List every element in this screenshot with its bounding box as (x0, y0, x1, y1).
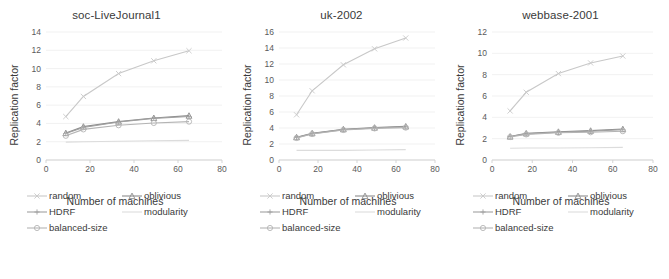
y-tick-label: 16 (265, 27, 275, 37)
series-marker-random (508, 108, 513, 113)
legend-spacer (354, 220, 449, 236)
x-tick-label: 60 (173, 164, 183, 174)
legend-item-oblivious[interactable]: oblivious (354, 188, 449, 204)
x-tick-label: 80 (648, 164, 658, 174)
legend-label: HDRF (49, 207, 75, 217)
legend-item-modularity[interactable]: modularity (121, 204, 216, 220)
y-tick-label: 0 (36, 155, 41, 165)
y-tick-label: 8 (269, 91, 274, 101)
legend-item-random[interactable]: random (26, 188, 121, 204)
legend-item-balanced-size[interactable]: balanced-size (472, 220, 567, 236)
legend-label: HDRF (282, 207, 308, 217)
legend-label: oblivious (144, 191, 181, 201)
legend-label: balanced-size (49, 223, 108, 233)
series-line-random (297, 38, 406, 115)
series-line-random (66, 51, 189, 117)
legend-item-modularity[interactable]: modularity (354, 204, 449, 220)
y-tick-label: 10 (265, 75, 275, 85)
y-tick-label: 2 (36, 137, 41, 147)
legend-label: balanced-size (495, 223, 554, 233)
legend-label: balanced-size (282, 223, 341, 233)
legend-item-balanced-size[interactable]: balanced-size (26, 220, 121, 236)
y-tick-label: 6 (482, 91, 487, 101)
legend-label: HDRF (495, 207, 521, 217)
legend-item-HDRF[interactable]: HDRF (472, 204, 567, 220)
y-tick-label: 10 (32, 64, 42, 74)
chart-legend-1: randomobliviousHDRFmodularitybalanced-si… (259, 188, 459, 236)
plus-glyph (34, 209, 39, 214)
legend-label: random (282, 191, 314, 201)
y-tick-label: 0 (269, 155, 274, 165)
y-tick-label: 14 (32, 27, 42, 37)
legend-label: oblivious (377, 191, 414, 201)
chart-legend-0: randomobliviousHDRFmodularitybalanced-si… (26, 188, 226, 236)
series-marker-random (372, 46, 377, 51)
y-tick-label: 4 (482, 112, 487, 122)
series-line-random (510, 56, 623, 111)
plus-marker-icon (26, 207, 48, 217)
plus-glyph (480, 209, 485, 214)
legend-label: modularity (144, 207, 188, 217)
plus-marker-icon (472, 207, 494, 217)
circle-marker-icon (472, 223, 494, 233)
series-marker-random (403, 35, 408, 40)
y-tick-label: 6 (269, 107, 274, 117)
x-tick-label: 20 (313, 164, 323, 174)
cross-marker-icon (472, 191, 494, 201)
series-marker-random (524, 90, 529, 95)
page-title: soc-LiveJournal1 (0, 0, 233, 22)
legend-item-balanced-size[interactable]: balanced-size (259, 220, 354, 236)
series-marker-random (81, 94, 86, 99)
legend-item-random[interactable]: random (472, 188, 567, 204)
y-tick-label: 12 (265, 59, 275, 69)
chart-canvas-1: 0246810121416020406080 (253, 22, 443, 182)
legend-item-oblivious[interactable]: oblivious (567, 188, 662, 204)
x-tick-label: 40 (352, 164, 362, 174)
cross-marker-icon (26, 191, 48, 201)
plot-area-0: Replication factor 02468101214020406080 … (0, 22, 233, 207)
replication-factor-figure: soc-LiveJournal1 Replication factor 0246… (0, 0, 669, 279)
triangle-marker-icon (121, 191, 143, 201)
chart-panel-webbase-2001: webbase-2001 Replication factor 02468101… (446, 0, 669, 279)
x-tick-label: 60 (391, 164, 401, 174)
y-tick-label: 4 (269, 123, 274, 133)
y-tick-label: 2 (269, 139, 274, 149)
legend-spacer (121, 220, 216, 236)
y-tick-label: 8 (36, 82, 41, 92)
chart-panel-soc-livejournal1: soc-LiveJournal1 Replication factor 0246… (0, 0, 233, 279)
line-marker-icon (354, 207, 376, 217)
x-tick-label: 20 (528, 164, 538, 174)
line-marker-icon (121, 207, 143, 217)
y-tick-label: 6 (36, 100, 41, 110)
chart-canvas-0: 02468101214020406080 (20, 22, 230, 182)
y-tick-label: 10 (478, 48, 488, 58)
legend-item-modularity[interactable]: modularity (567, 204, 662, 220)
x-tick-label: 80 (217, 164, 227, 174)
x-tick-label: 20 (85, 164, 95, 174)
series-marker-random (310, 88, 315, 93)
legend-item-oblivious[interactable]: oblivious (121, 188, 216, 204)
legend-spacer (567, 220, 662, 236)
series-marker-random (63, 114, 68, 119)
circle-marker-icon (26, 223, 48, 233)
plot-area-2: Replication factor 024681012020406080 Nu… (446, 22, 669, 207)
series-marker-random (116, 71, 121, 76)
page-title: uk-2002 (233, 0, 446, 22)
legend-label: oblivious (590, 191, 627, 201)
x-tick-label: 0 (44, 164, 49, 174)
x-tick-label: 40 (129, 164, 139, 174)
legend-item-HDRF[interactable]: HDRF (26, 204, 121, 220)
x-tick-label: 40 (568, 164, 578, 174)
series-line-modularity (510, 147, 623, 148)
x-tick-label: 0 (277, 164, 282, 174)
y-tick-label: 2 (482, 134, 487, 144)
legend-label: random (49, 191, 81, 201)
legend-item-random[interactable]: random (259, 188, 354, 204)
triangle-marker-icon (354, 191, 376, 201)
chart-panel-uk-2002: uk-2002 Replication factor 0246810121416… (233, 0, 446, 279)
legend-item-HDRF[interactable]: HDRF (259, 204, 354, 220)
series-line-modularity (297, 150, 406, 151)
series-marker-random (341, 62, 346, 67)
x-tick-label: 0 (490, 164, 495, 174)
circle-marker-icon (259, 223, 281, 233)
